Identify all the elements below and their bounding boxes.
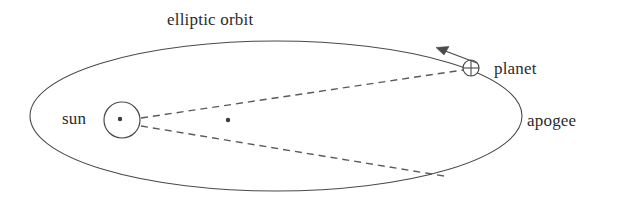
elliptic-orbit-label: elliptic orbit <box>167 10 253 30</box>
orbit-diagram-canvas <box>0 0 621 205</box>
sun-center-dot-icon <box>118 117 122 121</box>
radius-vector-sun-to-arc <box>141 126 444 176</box>
planet-label: planet <box>494 59 537 79</box>
ellipse-center-dot-icon <box>226 118 230 122</box>
sun-label: sun <box>62 109 86 129</box>
sun-icon <box>104 102 140 138</box>
orbit-diagram: elliptic orbit planet apogee sun <box>0 0 621 205</box>
elliptic-orbit-path <box>30 41 522 191</box>
radius-vector-sun-to-planet <box>141 70 463 118</box>
velocity-arrow-icon-head <box>436 47 449 56</box>
apogee-label: apogee <box>527 111 576 131</box>
